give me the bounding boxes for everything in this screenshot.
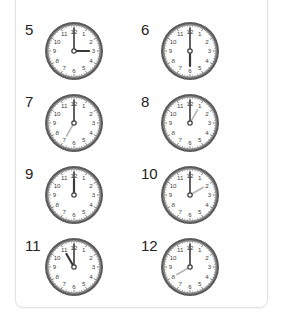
clock-numeral: 7: [179, 208, 183, 215]
clock-numeral: 1: [198, 102, 202, 109]
clock-numeral: 9: [169, 191, 173, 198]
clock-numeral: 3: [208, 191, 212, 198]
clock-numeral: 5: [198, 136, 202, 143]
clock-numeral: 5: [198, 280, 202, 287]
clock-numeral: 6: [188, 211, 192, 218]
clock-numeral: 3: [208, 119, 212, 126]
clock-numeral: 3: [208, 47, 212, 54]
clock-item-7: 7121234567891011: [25, 94, 145, 166]
clock-center-pin: [188, 265, 192, 269]
clock-numeral: 5: [198, 208, 202, 215]
clock-numeral: 2: [205, 182, 209, 189]
clock-numeral: 9: [169, 47, 173, 54]
clock-item-5: 5121234567891011: [25, 22, 145, 94]
question-number: 6: [141, 22, 149, 38]
analog-clock: 121234567891011: [43, 164, 105, 226]
question-number: 12: [141, 238, 158, 254]
clock-numeral: 3: [208, 263, 212, 270]
clock-center-pin: [72, 121, 76, 125]
clock-numeral: 5: [82, 136, 86, 143]
clock-numeral: 4: [89, 129, 93, 136]
clock-numeral: 5: [82, 64, 86, 71]
clock-numeral: 7: [179, 280, 183, 287]
clock-numeral: 10: [54, 110, 61, 117]
clock-numeral: 4: [205, 201, 209, 208]
clock-numeral: 8: [171, 273, 175, 280]
question-number: 8: [141, 94, 149, 110]
clock-numeral: 7: [63, 64, 67, 71]
clock-center-pin: [188, 193, 192, 197]
clock-numeral: 7: [179, 136, 183, 143]
analog-clock: 121234567891011: [159, 164, 221, 226]
clock-item-12: 12121234567891011: [141, 238, 261, 310]
clock-numeral: 9: [53, 263, 57, 270]
clock-center-pin: [72, 193, 76, 197]
clock-numeral: 6: [188, 283, 192, 290]
clock-item-11: 11121234567891011: [25, 238, 145, 310]
clock-numeral: 7: [179, 64, 183, 71]
clock-numeral: 7: [63, 280, 67, 287]
clock-numeral: 1: [82, 102, 86, 109]
clock-numeral: 1: [198, 30, 202, 37]
clock-numeral: 4: [205, 273, 209, 280]
question-number: 10: [141, 166, 158, 182]
clock-item-6: 6121234567891011: [141, 22, 261, 94]
clock-numeral: 2: [89, 110, 93, 117]
clock-numeral: 3: [92, 263, 96, 270]
clock-numeral: 2: [89, 182, 93, 189]
clock-numeral: 9: [169, 263, 173, 270]
clock-numeral: 11: [177, 102, 184, 109]
question-number: 5: [25, 22, 33, 38]
clock-numeral: 3: [92, 119, 96, 126]
clock-numeral: 10: [54, 254, 61, 261]
clock-numeral: 3: [92, 47, 96, 54]
clock-numeral: 11: [177, 174, 184, 181]
question-number: 7: [25, 94, 33, 110]
clock-numeral: 1: [82, 246, 86, 253]
clock-numeral: 5: [198, 64, 202, 71]
clock-numeral: 10: [54, 38, 61, 45]
clock-numeral: 10: [170, 254, 177, 261]
clock-numeral: 3: [92, 191, 96, 198]
clock-numeral: 1: [82, 30, 86, 37]
analog-clock: 121234567891011: [159, 20, 221, 82]
clock-numeral: 1: [198, 246, 202, 253]
clock-center-pin: [72, 49, 76, 53]
clock-numeral: 7: [63, 208, 67, 215]
clock-numeral: 8: [55, 129, 59, 136]
analog-clock: 121234567891011: [159, 236, 221, 298]
clock-numeral: 2: [89, 38, 93, 45]
clock-numeral: 6: [72, 139, 76, 146]
clock-numeral: 9: [169, 119, 173, 126]
clock-numeral: 10: [170, 38, 177, 45]
clock-center-pin: [72, 265, 76, 269]
clock-numeral: 7: [63, 136, 67, 143]
clock-numeral: 4: [89, 57, 93, 64]
clock-numeral: 4: [89, 273, 93, 280]
clock-numeral: 11: [177, 30, 184, 37]
clock-numeral: 2: [205, 38, 209, 45]
analog-clock: 121234567891011: [43, 92, 105, 154]
clock-numeral: 8: [55, 273, 59, 280]
clock-numeral: 5: [82, 280, 86, 287]
clock-numeral: 9: [53, 119, 57, 126]
clock-numeral: 10: [54, 182, 61, 189]
clock-numeral: 6: [188, 67, 192, 74]
clock-numeral: 4: [205, 129, 209, 136]
question-number: 11: [25, 238, 41, 254]
clock-numeral: 6: [72, 283, 76, 290]
clock-numeral: 2: [205, 110, 209, 117]
clock-numeral: 6: [72, 67, 76, 74]
clock-numeral: 6: [72, 211, 76, 218]
clock-numeral: 2: [89, 254, 93, 261]
clock-numeral: 8: [55, 201, 59, 208]
clock-numeral: 1: [198, 174, 202, 181]
clock-numeral: 10: [170, 182, 177, 189]
clock-numeral: 4: [205, 57, 209, 64]
clock-numeral: 2: [205, 254, 209, 261]
clock-numeral: 8: [171, 201, 175, 208]
analog-clock: 121234567891011: [43, 20, 105, 82]
clock-numeral: 8: [55, 57, 59, 64]
clock-item-9: 9121234567891011: [25, 166, 145, 238]
clock-numeral: 10: [170, 110, 177, 117]
